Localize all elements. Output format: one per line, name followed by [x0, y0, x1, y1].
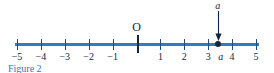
tick-label: −2: [76, 51, 102, 62]
tick-mark: [232, 39, 233, 50]
number-line-figure: −5−4−3−2−112345 O a a Figure 2: [0, 0, 274, 73]
tick-label: −1: [100, 51, 126, 62]
tick-label: 5: [243, 51, 269, 62]
origin-tick: [137, 35, 139, 53]
marked-point-axis-label: a: [211, 51, 231, 62]
marked-point-label: a: [208, 0, 228, 11]
down-arrow-icon: [214, 11, 223, 41]
tick-mark: [41, 39, 42, 50]
tick-mark: [184, 39, 185, 50]
tick-label: −5: [4, 51, 30, 62]
tick-mark: [256, 39, 257, 50]
tick-label: −3: [52, 51, 78, 62]
tick-label: −4: [28, 51, 54, 62]
tick-label: 2: [171, 51, 197, 62]
tick-mark: [89, 39, 90, 50]
tick-mark: [208, 39, 209, 50]
tick-mark: [17, 39, 18, 50]
tick-mark: [113, 39, 114, 50]
tick-mark: [65, 39, 66, 50]
origin-label: O: [125, 21, 149, 34]
figure-caption: Figure 2: [8, 63, 42, 73]
tick-mark: [160, 39, 161, 50]
tick-label: 1: [147, 51, 173, 62]
marked-point-dot: [215, 41, 221, 47]
